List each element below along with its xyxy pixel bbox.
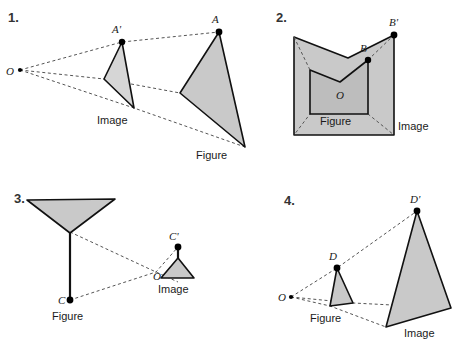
problem-4-figure-label: Figure — [310, 312, 341, 324]
problem-4-center-dot — [289, 295, 293, 299]
problem-1-number: 1. — [8, 10, 19, 25]
problem-3-group: 3. C C' O Figure Image — [14, 191, 194, 322]
problem-1-image-triangle — [104, 42, 134, 108]
dilations-diagram: 1. O A' A Image Figure 2. — [0, 0, 463, 344]
problem-4-point-D-prime-dot — [414, 208, 421, 215]
problem-4-image-label: Image — [404, 327, 435, 339]
problem-4-label-D-prime: D' — [409, 193, 421, 205]
problem-4-center-label: O — [278, 291, 286, 303]
problem-2-label-B: B — [360, 42, 367, 54]
problem-3-label-C: C — [58, 294, 66, 306]
problem-3-number: 3. — [14, 191, 25, 206]
problem-1-point-A-prime-dot — [119, 39, 125, 45]
problem-2-point-B-dot — [365, 57, 371, 63]
problem-3-label-C-prime: C' — [169, 230, 179, 242]
problem-1-label-A: A — [211, 13, 219, 25]
problem-2-figure-label: Figure — [320, 115, 351, 127]
problem-2-label-B-prime: B' — [389, 16, 399, 28]
problem-1-center-dot — [18, 68, 22, 72]
problem-3-image-triangle — [161, 258, 194, 278]
problem-3-center-label: O — [153, 270, 161, 282]
problem-1-point-A-dot — [216, 29, 223, 36]
problem-3-figure-label: Figure — [52, 310, 83, 322]
problem-2-group: 2. B' B O Figure Image — [276, 10, 429, 135]
problem-4-label-D: D — [328, 250, 337, 262]
ray-o-to-image-base — [70, 232, 178, 282]
problem-2-center-label: O — [336, 89, 344, 101]
problem-3-point-C-dot — [67, 297, 74, 304]
problem-2-image-label: Image — [398, 120, 429, 132]
problem-4-figure-triangle — [330, 268, 353, 306]
problem-1-center-label: O — [6, 65, 14, 77]
problem-1-figure-triangle — [180, 32, 245, 147]
problem-4-image-triangle — [386, 211, 451, 327]
problem-2-point-B-prime-dot — [391, 32, 398, 39]
problem-1-label-A-prime: A' — [111, 23, 122, 35]
problem-1-figure-label: Figure — [196, 149, 227, 161]
problem-3-point-C-prime-dot — [175, 244, 182, 251]
problem-3-figure-triangle — [27, 199, 115, 233]
problem-4-group: 4. O D D' Figure Image — [278, 193, 451, 339]
problem-1-image-label: Image — [97, 114, 128, 126]
problem-4-number: 4. — [284, 193, 295, 208]
problem-1-group: 1. O A' A Image Figure — [6, 10, 245, 161]
problem-2-number: 2. — [276, 10, 287, 25]
problem-3-image-label: Image — [158, 283, 189, 295]
problem-4-point-D-dot — [334, 265, 341, 272]
ray-o-to-left-vertex — [20, 70, 180, 93]
